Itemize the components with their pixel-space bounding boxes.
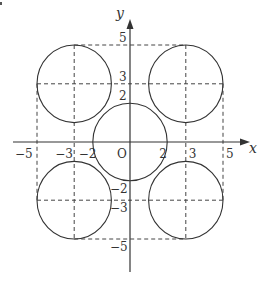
coordinate-diagram: x y O −5−3−2235532−2−3−5 bbox=[0, 0, 265, 281]
x-tick-label: −5 bbox=[15, 147, 33, 161]
x-tick-label: 2 bbox=[159, 147, 167, 161]
y-axis-arrow-icon bbox=[127, 19, 134, 29]
y-tick-label: 3 bbox=[119, 70, 127, 84]
x-tick-label: 3 bbox=[189, 147, 197, 161]
origin-label: O bbox=[117, 147, 127, 161]
corner-mark bbox=[0, 2, 2, 5]
x-axis-label: x bbox=[249, 140, 257, 156]
x-tick-label: −2 bbox=[79, 147, 97, 161]
y-tick-label: 5 bbox=[119, 31, 127, 45]
y-axis-label: y bbox=[115, 5, 125, 21]
x-tick-label: −3 bbox=[55, 147, 73, 161]
x-tick-label: 5 bbox=[226, 147, 234, 161]
y-tick-label: 2 bbox=[119, 89, 127, 103]
y-tick-label: −3 bbox=[110, 201, 128, 215]
y-tick-label: −5 bbox=[110, 240, 128, 254]
axes: x y O bbox=[13, 5, 257, 272]
y-tick-label: −2 bbox=[110, 182, 128, 196]
